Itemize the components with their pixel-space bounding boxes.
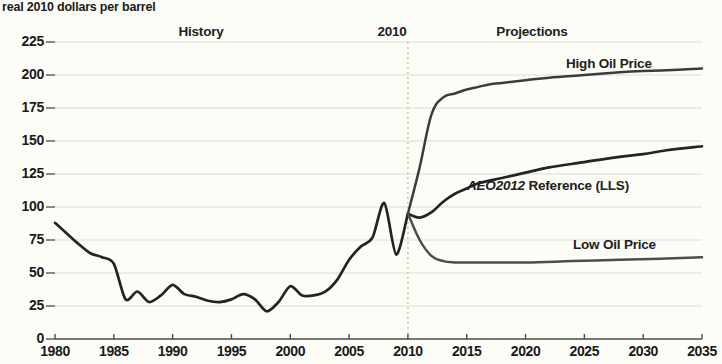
- history-period-label: History: [146, 24, 256, 39]
- y-tick-label: 50: [0, 264, 44, 280]
- y-tick-label: 225: [0, 33, 44, 49]
- reference-rest-text: Reference (LLS): [525, 178, 629, 193]
- x-tick-label: 2010: [381, 343, 435, 359]
- y-tick-label: 25: [0, 297, 44, 313]
- x-tick-label: 2020: [499, 343, 553, 359]
- y-tick-label: 125: [0, 165, 44, 181]
- reference-series-label: AEO2012 Reference (LLS): [467, 178, 629, 193]
- projections-period-label: Projections: [452, 24, 612, 39]
- y-tick-label: 175: [0, 99, 44, 115]
- x-tick-label: 2015: [440, 343, 494, 359]
- y-tick-label: 100: [0, 198, 44, 214]
- x-tick-label: 1990: [146, 343, 200, 359]
- x-tick-label: 1995: [204, 343, 258, 359]
- x-tick-label: 2000: [263, 343, 317, 359]
- x-tick-label: 2030: [616, 343, 670, 359]
- reference-aeo-text: AEO2012: [467, 178, 525, 193]
- x-tick-label: 2025: [557, 343, 611, 359]
- x-tick-label: 2005: [322, 343, 376, 359]
- divider-year-label: 2010: [351, 24, 433, 39]
- series-line-0: [55, 203, 408, 311]
- low-oil-price-label: Low Oil Price: [573, 237, 656, 252]
- y-tick-label: 75: [0, 231, 44, 247]
- y-tick-label: 200: [0, 66, 44, 82]
- x-tick-label: 2035: [675, 343, 722, 359]
- y-tick-label: 150: [0, 132, 44, 148]
- high-oil-price-label: High Oil Price: [566, 56, 652, 71]
- series-line-3: [408, 214, 702, 263]
- x-tick-label: 1980: [28, 343, 82, 359]
- x-tick-label: 1985: [87, 343, 141, 359]
